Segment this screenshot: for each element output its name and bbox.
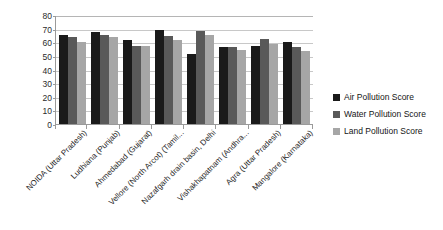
bar[interactable] bbox=[292, 47, 301, 124]
y-axis-tick-label: 80 bbox=[43, 12, 52, 21]
bar[interactable] bbox=[187, 54, 196, 124]
legend-swatch-icon bbox=[333, 111, 340, 118]
bar[interactable] bbox=[68, 37, 77, 124]
x-axis-tick-label: Mangalore (Karnataka) bbox=[196, 129, 315, 230]
y-axis-tick-label: 30 bbox=[43, 80, 52, 89]
bar[interactable] bbox=[251, 46, 260, 124]
legend-item-label: Air Pollution Score bbox=[344, 93, 414, 102]
bar[interactable] bbox=[155, 30, 164, 124]
bar-group bbox=[152, 16, 184, 124]
bar[interactable] bbox=[100, 35, 109, 124]
bar[interactable] bbox=[77, 42, 86, 124]
bar[interactable] bbox=[283, 42, 292, 124]
legend-item-land-pollution-score[interactable]: Land Pollution Score bbox=[333, 126, 441, 136]
bar-group bbox=[120, 16, 152, 124]
chart-legend: Air Pollution Score Water Pollution Scor… bbox=[333, 92, 441, 143]
bar-group bbox=[88, 16, 120, 124]
y-axis-tick-label: 0 bbox=[47, 121, 52, 130]
bar-groups bbox=[56, 16, 313, 124]
bar-group bbox=[281, 16, 313, 124]
bar[interactable] bbox=[91, 32, 100, 124]
bar[interactable] bbox=[173, 40, 182, 124]
y-axis-tick-label: 10 bbox=[43, 107, 52, 116]
bar[interactable] bbox=[109, 37, 118, 124]
bar[interactable] bbox=[228, 47, 237, 124]
bar[interactable] bbox=[123, 40, 132, 124]
legend-swatch-icon bbox=[333, 94, 340, 101]
legend-item-label: Land Pollution Score bbox=[344, 127, 422, 136]
bar[interactable] bbox=[260, 39, 269, 124]
y-axis-tick-label: 20 bbox=[43, 94, 52, 103]
bar[interactable] bbox=[301, 51, 310, 124]
bar[interactable] bbox=[132, 46, 141, 124]
bar[interactable] bbox=[205, 35, 214, 124]
bar[interactable] bbox=[219, 47, 228, 124]
pollution-score-bar-chart: 01020304050607080 NOIDA (Uttar Pradesh)L… bbox=[0, 0, 443, 230]
bar[interactable] bbox=[196, 31, 205, 124]
bar-group bbox=[217, 16, 249, 124]
bar-group bbox=[56, 16, 88, 124]
bar-group bbox=[249, 16, 281, 124]
x-axis-labels: NOIDA (Uttar Pradesh)Ludhiana (Punjab)Ah… bbox=[55, 129, 313, 225]
bar[interactable] bbox=[164, 36, 173, 124]
legend-item-label: Water Pollution Score bbox=[344, 110, 426, 119]
legend-item-water-pollution-score[interactable]: Water Pollution Score bbox=[333, 109, 441, 119]
bar[interactable] bbox=[237, 50, 246, 124]
bar[interactable] bbox=[141, 46, 150, 124]
y-axis-tick-label: 60 bbox=[43, 39, 52, 48]
bar[interactable] bbox=[59, 35, 68, 124]
bar[interactable] bbox=[269, 44, 278, 124]
y-axis-tick-label: 50 bbox=[43, 53, 52, 62]
y-axis-tick-label: 40 bbox=[43, 66, 52, 75]
plot-area: 01020304050607080 bbox=[55, 16, 313, 125]
legend-swatch-icon bbox=[333, 128, 340, 135]
bar-group bbox=[185, 16, 217, 124]
legend-item-air-pollution-score[interactable]: Air Pollution Score bbox=[333, 92, 441, 102]
y-axis-tick-label: 70 bbox=[43, 25, 52, 34]
